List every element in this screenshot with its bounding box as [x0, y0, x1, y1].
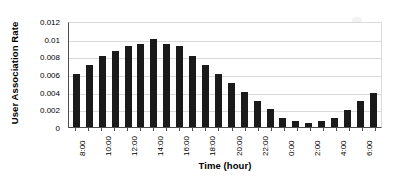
bar [73, 74, 80, 127]
x-tick-label: 12:00 [130, 136, 139, 156]
bar [370, 93, 377, 127]
x-tick-label: 10:00 [104, 136, 113, 156]
y-tick-label: 0.006 [40, 71, 60, 80]
x-tick-mark [245, 128, 246, 131]
bar [344, 110, 351, 127]
bar [150, 39, 157, 127]
x-tick-mark [336, 128, 337, 131]
y-tick-label: 0 [56, 124, 60, 133]
y-tick-label: 0.012 [40, 18, 60, 27]
bar [254, 101, 261, 128]
x-tick-mark [232, 128, 233, 131]
x-tick-label: 2:00 [313, 140, 322, 156]
x-tick-label: 6:00 [365, 140, 374, 156]
y-tick-label: 0.002 [40, 106, 60, 115]
x-tick-label: 4:00 [339, 140, 348, 156]
x-tick-label: 22:00 [261, 136, 270, 156]
x-tick-mark [310, 128, 311, 131]
bar [279, 118, 286, 127]
bar [241, 92, 248, 127]
y-tick-label: 0.004 [40, 88, 60, 97]
x-tick-label: 14:00 [156, 136, 165, 156]
x-tick-mark [166, 128, 167, 131]
bar [99, 56, 106, 127]
x-tick-label: 16:00 [182, 136, 191, 156]
x-tick-mark [205, 128, 206, 131]
bar-series [69, 23, 381, 127]
bar [228, 83, 235, 127]
bar [112, 51, 119, 127]
x-tick-label: 8:00 [78, 140, 87, 156]
bar [189, 56, 196, 127]
x-tick-label: 0:00 [287, 140, 296, 156]
x-tick-mark [218, 128, 219, 131]
x-tick-mark [349, 128, 350, 131]
x-tick-label: 18:00 [208, 136, 217, 156]
x-tick-mark [271, 128, 272, 131]
x-tick-mark [75, 128, 76, 131]
x-tick-label: 20:00 [235, 136, 244, 156]
bar [137, 44, 144, 127]
y-tick-label: 0.008 [40, 53, 60, 62]
x-tick-mark [114, 128, 115, 131]
x-tick-mark [101, 128, 102, 131]
bar [125, 46, 132, 127]
y-tick-label: 0.01 [44, 35, 60, 44]
bar [331, 118, 338, 127]
bar [305, 123, 312, 127]
bar [267, 109, 274, 127]
x-tick-mark [258, 128, 259, 131]
x-tick-mark [297, 128, 298, 131]
bar [292, 121, 299, 127]
bar [215, 74, 222, 127]
chart-figure: User Association Rate 00.0020.0040.0060.… [0, 0, 402, 180]
x-tick-mark [362, 128, 363, 131]
x-tick-mark [284, 128, 285, 131]
bar [163, 44, 170, 127]
x-tick-mark [88, 128, 89, 131]
x-tick-mark [192, 128, 193, 131]
x-tick-mark [179, 128, 180, 131]
y-axis-tick-labels: 00.0020.0040.0060.0080.010.012 [22, 22, 64, 128]
bar [318, 121, 325, 127]
bar [86, 65, 93, 127]
x-tick-mark [140, 128, 141, 131]
x-tick-mark [323, 128, 324, 131]
x-tick-mark [375, 128, 376, 131]
x-axis-title: Time (hour) [68, 160, 382, 171]
bar [202, 65, 209, 127]
x-axis-tick-labels: 8:0010:0012:0014:0016:0018:0020:0022:000… [68, 132, 382, 158]
bar [357, 101, 364, 127]
x-tick-mark [153, 128, 154, 131]
x-tick-mark [127, 128, 128, 131]
plot-area [68, 22, 382, 128]
bar [176, 46, 183, 127]
